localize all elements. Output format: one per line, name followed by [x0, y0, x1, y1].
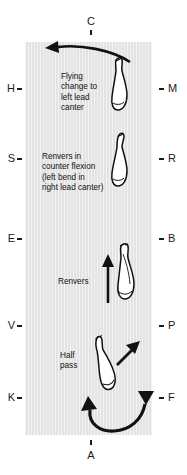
marker-letter-r: R [168, 153, 184, 164]
annotation-renvers-counter-flexion: Renvers in counter flexion (left bend in… [42, 152, 103, 194]
annotation-renvers-counter-flexion-line-4: right lead canter) [42, 183, 103, 192]
marker-letter-s: S [2, 153, 15, 164]
marker-tick-b [159, 238, 164, 240]
annotation-flying-change: Flying change to left lead canter [61, 72, 97, 114]
marker-letter-v: V [2, 320, 15, 331]
marker-letter-k: K [2, 392, 15, 403]
marker-tick-c [90, 30, 92, 35]
marker-tick-v [17, 325, 22, 327]
marker-letter-f: F [168, 392, 184, 403]
diagram-canvas: C A H S E V K M R B P F Flying change to… [0, 0, 187, 475]
annotation-flying-change-line-3: left lead [61, 93, 90, 102]
marker-tick-r [159, 158, 164, 160]
marker-letter-p: P [168, 320, 184, 331]
marker-letter-e: E [2, 233, 15, 244]
horse-renvers-icon [113, 242, 143, 304]
marker-letter-h: H [2, 83, 15, 94]
marker-tick-m [159, 88, 164, 90]
annotation-renvers-counter-flexion-line-1: Renvers in [42, 152, 81, 161]
marker-letter-c: C [84, 16, 98, 27]
annotation-renvers-line-1: Renvers [58, 277, 89, 286]
annotation-flying-change-line-4: canter [61, 103, 84, 112]
horse-renvers-counter-flexion-icon [106, 131, 136, 191]
marker-tick-a [90, 440, 92, 445]
marker-tick-s [17, 158, 22, 160]
annotation-renvers: Renvers [58, 277, 89, 287]
annotation-flying-change-line-1: Flying [61, 72, 83, 81]
annotation-half-pass-line-2: pass [60, 361, 77, 370]
arrow-renvers-straight-icon [101, 253, 115, 305]
horse-flying-change-icon [106, 55, 136, 115]
annotation-renvers-counter-flexion-line-3: (left bend in [42, 173, 85, 182]
marker-tick-e [17, 238, 22, 240]
marker-tick-h [17, 88, 22, 90]
arrow-half-pass-diagonal-icon [113, 337, 145, 369]
annotation-renvers-counter-flexion-line-2: counter flexion [42, 162, 95, 171]
marker-tick-k [17, 397, 22, 399]
marker-letter-b: B [168, 233, 184, 244]
marker-tick-p [159, 325, 164, 327]
marker-letter-m: M [168, 83, 184, 94]
marker-letter-a: A [84, 450, 98, 461]
annotation-half-pass-line-1: Half [60, 351, 75, 360]
annotation-half-pass: Half pass [60, 351, 77, 372]
arrow-bottom-turn-icon [58, 372, 163, 434]
annotation-flying-change-line-2: change to [61, 82, 97, 91]
